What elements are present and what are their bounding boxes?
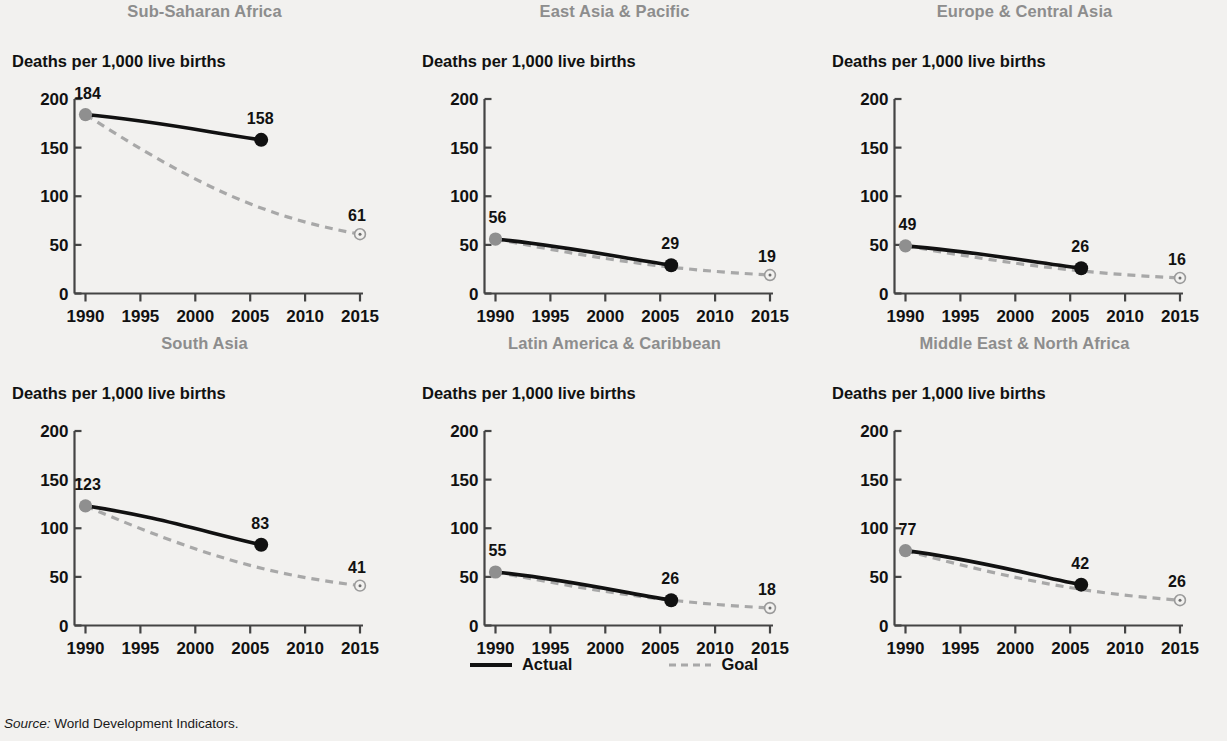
start-marker	[899, 544, 912, 557]
data-point-label: 56	[489, 209, 507, 226]
legend-label-goal: Goal	[721, 655, 758, 674]
data-point-label: 83	[251, 515, 269, 532]
plot-area: 0501001502001990199520002005201020151238…	[0, 332, 409, 667]
axes: 050100150200199019952000200520102015	[450, 422, 789, 658]
source-note: Source: World Development Indicators.	[4, 716, 239, 731]
actual-line	[496, 572, 672, 600]
actual-line	[906, 551, 1082, 585]
data-point-label: 16	[1168, 251, 1186, 268]
data-point-label: 26	[1071, 238, 1089, 255]
x-tick-label: 2010	[286, 307, 324, 326]
legend-label-actual: Actual	[522, 655, 572, 674]
y-tick-label: 150	[450, 139, 478, 158]
x-tick-label: 2005	[231, 307, 269, 326]
end-marker	[664, 258, 678, 272]
actual-line	[496, 239, 672, 265]
y-tick-label: 150	[450, 471, 478, 490]
legend-swatch-goal-icon	[668, 659, 712, 671]
chart-grid: Sub-Saharan AfricaDeaths per 1,000 live …	[0, 0, 1227, 670]
legend-item-goal: Goal	[668, 655, 758, 674]
y-tick-label: 0	[59, 285, 68, 304]
y-tick-label: 0	[879, 617, 888, 636]
y-tick-label: 50	[460, 568, 479, 587]
axes: 050100150200199019952000200520102015	[40, 90, 379, 326]
goal-marker	[1175, 273, 1186, 284]
x-tick-label: 2000	[176, 307, 214, 326]
y-tick-label: 50	[870, 568, 889, 587]
y-tick-label: 50	[50, 568, 69, 587]
y-tick-label: 150	[40, 139, 68, 158]
legend-item-actual: Actual	[469, 655, 572, 674]
end-marker	[1074, 261, 1088, 275]
x-tick-label: 2000	[586, 307, 624, 326]
chart-panel: Latin America & CaribbeanDeaths per 1,00…	[410, 332, 819, 667]
data-point-label: 42	[1071, 555, 1089, 572]
x-tick-label: 1990	[67, 307, 105, 326]
chart-panel: Middle East & North AfricaDeaths per 1,0…	[820, 332, 1227, 667]
start-marker	[489, 565, 502, 578]
y-tick-label: 200	[860, 90, 888, 109]
x-tick-label: 2015	[341, 307, 379, 326]
y-tick-label: 200	[40, 90, 68, 109]
data-point-label: 61	[348, 207, 366, 224]
source-text: World Development Indicators.	[51, 716, 239, 731]
y-tick-label: 100	[40, 519, 68, 538]
x-tick-label: 2010	[1106, 307, 1144, 326]
chart-panel: South AsiaDeaths per 1,000 live births05…	[0, 332, 409, 667]
chart-panel: Europe & Central AsiaDeaths per 1,000 li…	[820, 0, 1227, 335]
x-tick-label: 1990	[477, 307, 515, 326]
axes: 050100150200199019952000200520102015	[860, 422, 1199, 658]
y-tick-label: 150	[40, 471, 68, 490]
y-tick-label: 150	[860, 139, 888, 158]
plot-area: 0501001502001990199520002005201020154926…	[820, 0, 1227, 335]
data-point-label: 29	[661, 235, 679, 252]
legend-swatch-actual-icon	[469, 659, 513, 671]
start-marker	[79, 499, 92, 512]
data-point-label: 41	[348, 559, 366, 576]
start-marker	[79, 108, 92, 121]
y-tick-label: 50	[870, 236, 889, 255]
y-tick-label: 100	[450, 187, 478, 206]
y-tick-label: 0	[469, 285, 478, 304]
axes: 050100150200199019952000200520102015	[40, 422, 379, 658]
end-marker	[664, 593, 678, 607]
x-tick-label: 2010	[696, 307, 734, 326]
y-tick-label: 100	[450, 519, 478, 538]
y-tick-label: 150	[860, 471, 888, 490]
y-tick-label: 200	[450, 422, 478, 441]
goal-marker	[1175, 595, 1186, 606]
end-marker	[254, 133, 268, 147]
actual-line	[906, 246, 1082, 268]
chart-legend: Actual Goal	[0, 655, 1227, 674]
goal-line	[86, 506, 361, 586]
chart-panel: Sub-Saharan AfricaDeaths per 1,000 live …	[0, 0, 409, 335]
x-tick-label: 1995	[941, 307, 979, 326]
y-tick-label: 0	[879, 285, 888, 304]
axes: 050100150200199019952000200520102015	[860, 90, 1199, 326]
y-tick-label: 200	[450, 90, 478, 109]
y-tick-label: 200	[40, 422, 68, 441]
goal-marker	[765, 603, 776, 614]
y-tick-label: 100	[860, 187, 888, 206]
data-point-label: 77	[899, 521, 917, 538]
plot-area: 0501001502001990199520002005201020151841…	[0, 0, 409, 335]
goal-marker	[355, 229, 366, 240]
end-marker	[254, 538, 268, 552]
y-tick-label: 0	[59, 617, 68, 636]
actual-line	[86, 115, 262, 140]
x-tick-label: 2015	[751, 307, 789, 326]
y-tick-label: 50	[50, 236, 69, 255]
x-tick-label: 2005	[1051, 307, 1089, 326]
plot-area: 0501001502001990199520002005201020157742…	[820, 332, 1227, 667]
plot-area: 0501001502001990199520002005201020155526…	[410, 332, 819, 667]
y-tick-label: 50	[460, 236, 479, 255]
x-tick-label: 1990	[887, 307, 925, 326]
plot-area: 0501001502001990199520002005201020155629…	[410, 0, 819, 335]
data-point-label: 123	[74, 476, 101, 493]
y-tick-label: 200	[860, 422, 888, 441]
x-tick-label: 2005	[641, 307, 679, 326]
end-marker	[1074, 578, 1088, 592]
actual-line	[86, 506, 262, 545]
x-tick-label: 2000	[996, 307, 1034, 326]
data-point-label: 49	[899, 216, 917, 233]
